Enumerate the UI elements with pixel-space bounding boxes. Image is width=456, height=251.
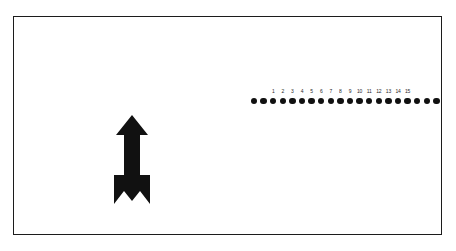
dot-marker: [280, 98, 286, 104]
figure-border: 123456789101112131415: [13, 16, 442, 235]
dot-marker: [347, 98, 353, 104]
dot-marker: [366, 98, 372, 104]
dot-marker: [289, 98, 295, 104]
dot-number-label: 15: [402, 87, 414, 96]
dot-marker: [251, 98, 257, 104]
dot-marker: [308, 98, 314, 104]
dot-marker: [395, 98, 401, 104]
dot-marker: [270, 98, 276, 104]
dot-marker: [385, 98, 391, 104]
dot-marker: [356, 98, 362, 104]
dot-number-labels: 123456789101112131415: [250, 87, 442, 97]
up-arrow-icon: [110, 113, 154, 207]
dot-marker: [260, 98, 266, 104]
figure-canvas: 123456789101112131415: [0, 0, 456, 251]
dot-row-group: 123456789101112131415: [250, 87, 442, 113]
dot-marker: [414, 98, 420, 104]
dot-row: [250, 98, 442, 110]
dot-marker: [404, 98, 410, 104]
dot-marker: [424, 98, 430, 104]
dot-marker: [337, 98, 343, 104]
dot-marker: [318, 98, 324, 104]
dot-marker: [299, 98, 305, 104]
dot-marker: [376, 98, 382, 104]
dot-marker: [433, 98, 439, 104]
dot-marker: [328, 98, 334, 104]
